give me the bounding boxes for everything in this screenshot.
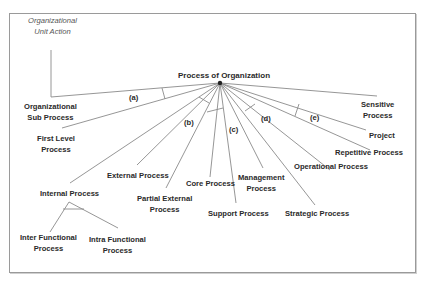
annotation-line-2: Unit Action	[28, 26, 77, 37]
label-line: Intra Functional	[89, 234, 146, 245]
group-label-c: (c)	[229, 125, 238, 134]
branch-sensitive-process: Sensitive Process	[361, 99, 394, 121]
group-label-e: (e)	[310, 113, 319, 122]
annotation-label: Organizational Unit Action	[28, 15, 77, 37]
label-line: Sub Process	[24, 112, 77, 123]
label-line: Process	[361, 110, 394, 121]
label-line: Process	[137, 204, 192, 215]
branch-management-process: Management Process	[238, 172, 284, 194]
label-line: Partial External	[137, 193, 192, 204]
branch-support-process: Support Process	[208, 208, 269, 219]
branch-external-process: External Process	[107, 170, 169, 181]
label-line: Process	[238, 183, 284, 194]
label-line: Management	[238, 172, 284, 183]
annotation-line-1: Organizational	[28, 15, 77, 26]
label-line: First Level	[37, 133, 75, 144]
label-line: Organizational	[24, 101, 77, 112]
hub-node	[218, 81, 222, 85]
label-line: Process	[20, 243, 77, 254]
branch-internal-process: Internal Process	[40, 188, 99, 199]
branch-repetitive-process: Repetitive Process	[335, 147, 403, 158]
group-label-d: (d)	[261, 114, 271, 123]
root-node-label: Process of Organization	[178, 70, 270, 81]
branch-partial-external-process: Partial External Process	[137, 193, 192, 215]
branch-strategic-process: Strategic Process	[285, 208, 349, 219]
label-line: Sensitive	[361, 99, 394, 110]
label-line: Process	[89, 245, 146, 256]
label-line: Process	[37, 144, 75, 155]
sub-branch-inter-functional: Inter Functional Process	[20, 232, 77, 254]
group-label-b: (b)	[184, 118, 194, 127]
branch-org-sub-process: Organizational Sub Process	[24, 101, 77, 123]
label-line: Inter Functional	[20, 232, 77, 243]
branch-core-process: Core Process	[186, 178, 235, 189]
group-label-a: (a)	[129, 93, 138, 102]
branch-operational-process: Operational Process	[294, 161, 368, 172]
sub-branch-intra-functional: Intra Functional Process	[89, 234, 146, 256]
branch-project: Project	[369, 130, 395, 141]
branch-first-level-process: First Level Process	[37, 133, 75, 155]
